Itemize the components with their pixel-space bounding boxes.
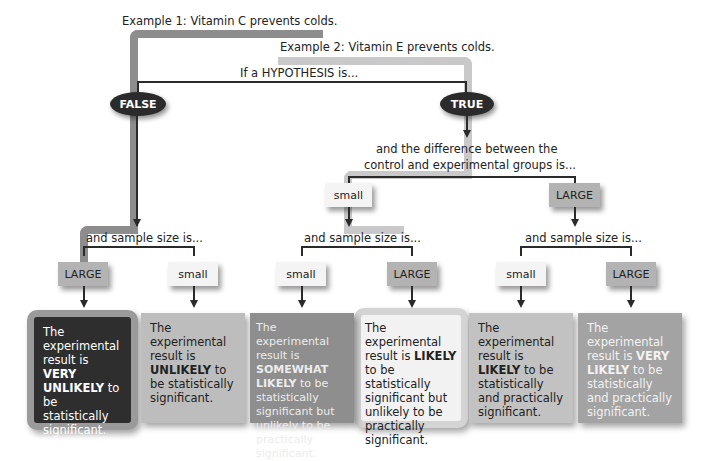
example-2-path-difference xyxy=(344,171,472,179)
true-node: TRUE xyxy=(440,92,494,116)
outcome-likely-stat-only: The experimental result is LIKELY to be … xyxy=(361,315,461,421)
sample-branch-small-left xyxy=(301,246,303,256)
sample-tag-largediff-small: small xyxy=(496,262,546,286)
outcome-arrow-4-icon xyxy=(408,300,416,308)
hypothesis-branch-line xyxy=(137,81,467,83)
outcome-likely-both: The experimental result is LIKELY to be … xyxy=(469,313,573,423)
sample-branch-large-left xyxy=(520,246,522,256)
true-arrow-icon xyxy=(463,130,471,138)
sample-branch-small xyxy=(301,246,412,248)
sample-size-prompt-large-diff: and sample size is... xyxy=(525,231,642,245)
outcome-very-unlikely: The experimental result is VERY UNLIKELY… xyxy=(34,317,131,423)
difference-prompt-line1: and the difference between the xyxy=(376,142,557,156)
hypothesis-prompt: If a HYPOTHESIS is... xyxy=(240,66,358,80)
outcome-arrow-2-icon xyxy=(190,300,198,308)
outcome-5-emphasis: LIKELY xyxy=(478,363,520,377)
false-node: FALSE xyxy=(110,92,166,116)
outcome-4-text-end: to be statistically significant but unli… xyxy=(365,363,447,447)
sample-branch-large-right xyxy=(630,246,632,256)
sample-branch-large xyxy=(520,246,631,248)
outcome-arrow-1-icon xyxy=(80,300,88,308)
outcome-4-emphasis: LIKELY xyxy=(414,349,456,363)
outcome-very-likely: The experimental result is VERY LIKELY t… xyxy=(578,313,682,423)
example-1-label: Example 1: Vitamin C prevents colds. xyxy=(122,14,337,28)
sample-branch-false-right xyxy=(193,246,195,256)
outcome-1-emphasis: VERY UNLIKELY xyxy=(43,367,104,395)
sample-tag-false-large: LARGE xyxy=(58,262,108,286)
outcome-2-text: The experimental result is xyxy=(150,321,226,363)
difference-large-tag: LARGE xyxy=(549,183,600,207)
difference-prompt-line2: control and experimental groups is... xyxy=(364,158,576,172)
false-branch-line xyxy=(136,116,138,226)
small-diff-arrow-icon xyxy=(345,219,353,227)
outcome-unlikely: The experimental result is UNLIKELY to b… xyxy=(141,313,245,423)
false-arrow-icon xyxy=(133,219,141,227)
outcome-3-text: The experimental result is xyxy=(256,321,329,362)
sample-size-prompt-false: and sample size is... xyxy=(86,231,203,245)
sample-tag-false-small: small xyxy=(168,262,218,286)
sample-tag-largediff-large: LARGE xyxy=(606,262,656,286)
example-2-path-top xyxy=(278,57,472,65)
sample-branch-small-right xyxy=(411,246,413,256)
outcome-5-text: The experimental result is xyxy=(478,321,554,363)
outcome-arrow-3-icon xyxy=(298,300,306,308)
sample-branch-false-left xyxy=(83,246,85,256)
sample-tag-smalldiff-small: small xyxy=(276,262,326,286)
example-2-label: Example 2: Vitamin E prevents colds. xyxy=(280,40,495,54)
outcome-arrow-6-icon xyxy=(627,300,635,308)
example-1-path-top xyxy=(130,30,323,38)
outcome-somewhat-likely: The experimental result is SOMEWHAT LIKE… xyxy=(250,313,354,423)
large-diff-arrow-icon xyxy=(571,219,579,227)
outcome-2-emphasis: UNLIKELY xyxy=(150,363,211,377)
difference-small-tag: small xyxy=(325,183,372,207)
sample-tag-smalldiff-large: LARGE xyxy=(387,262,437,286)
sample-size-prompt-small-diff: and sample size is... xyxy=(304,231,421,245)
sample-branch-false xyxy=(83,246,194,248)
outcome-arrow-5-icon xyxy=(517,300,525,308)
outcome-1-text: The experimental result is xyxy=(43,325,119,367)
difference-branch-line xyxy=(348,176,575,178)
